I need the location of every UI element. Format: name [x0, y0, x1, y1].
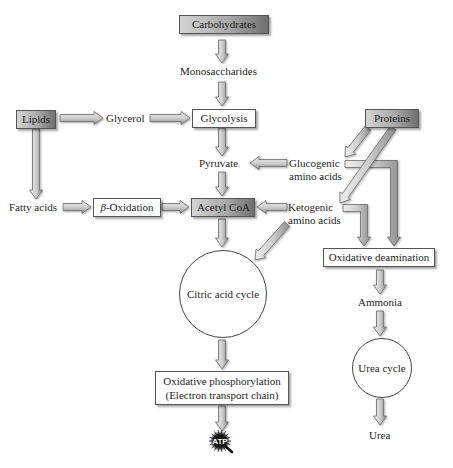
ammonia-label: Ammonia	[358, 296, 402, 309]
ketogenic-line1: Ketogenic	[288, 201, 341, 214]
arrow-oxphos-atp	[216, 406, 229, 431]
atp-label: ATP	[212, 437, 228, 446]
urea-cycle-circle: Urea cycle	[352, 338, 412, 398]
arrow-lipids-fatty-acids	[30, 129, 43, 199]
arrow-ketogenic-acetyl-coa	[257, 201, 287, 214]
atp-icon: ATP	[209, 430, 237, 458]
urea-label: Urea	[369, 429, 390, 442]
acetyl-coa-box: Acetyl CoA	[191, 198, 255, 217]
oxidative-deamination-box: Oxidative deamination	[323, 248, 435, 267]
arrow-urea-cycle-urea	[374, 399, 387, 425]
arrow-citric-acid-cycle-oxphos	[216, 340, 229, 369]
glucogenic-line1: Glucogenic	[289, 157, 342, 170]
arrow-pyruvate-acetyl-coa	[216, 172, 229, 196]
atp-burst-spike	[218, 448, 219, 452]
pyruvate-label: Pyruvate	[199, 157, 238, 170]
proteins-box: Proteins	[365, 109, 419, 128]
glucogenic-line2: amino acids	[289, 170, 342, 183]
arrow-proteins-glucogenic	[345, 126, 371, 157]
arrow-ammonia-urea-cycle	[374, 311, 387, 336]
lipids-box: Lipids	[16, 110, 56, 129]
glucogenic-amino-acids-label: Glucogenic amino acids	[289, 157, 342, 183]
ketogenic-amino-acids-label: Ketogenic amino acids	[288, 201, 341, 227]
arrow-oxidative-deamination-ammonia	[374, 270, 387, 294]
monosaccharides-label: Monosaccharides	[180, 65, 257, 78]
oxphos-line2: (Electron transport chain)	[160, 388, 284, 402]
arrow-fatty-acids-beta-oxidation	[63, 201, 91, 214]
carbohydrates-box: Carbohydrates	[179, 15, 269, 34]
arrow-glucogenic-pyruvate	[250, 157, 287, 170]
arrow-glycerol-glycolysis	[150, 112, 190, 125]
arrow-monosaccharides-glycolysis	[216, 82, 229, 106]
atp-burst-spike	[218, 430, 219, 434]
arrow-carbohydrates-monosaccharides	[216, 40, 229, 63]
arrow-beta-oxidation-acetyl-coa	[162, 201, 189, 214]
beta-oxidation-box: β-Oxidation	[93, 198, 161, 217]
fatty-acids-label: Fatty acids	[9, 201, 57, 214]
oxphos-line1: Oxidative phosphorylation	[160, 374, 284, 388]
oxidative-phosphorylation-box: Oxidative phosphorylation (Electron tran…	[155, 371, 289, 405]
ketogenic-line2: amino acids	[288, 214, 341, 227]
arrow-glycolysis-pyruvate	[216, 128, 229, 156]
glycerol-label: Glycerol	[106, 112, 144, 125]
atp-burst-spike	[221, 430, 222, 434]
metabolism-diagram: Carbohydrates Monosaccharides Lipids Gly…	[0, 0, 453, 468]
arrow-ketogenic-citric-acid-cycle	[255, 222, 290, 260]
glycolysis-box: Glycolysis	[192, 109, 256, 128]
arrow-lipids-glycerol	[60, 112, 103, 125]
arrow-ketogenic-oxidative-deamination	[343, 205, 371, 247]
atp-burst-spike	[221, 448, 222, 452]
citric-acid-cycle-circle: Citric acid cycle	[179, 250, 267, 338]
citric-acid-cycle-label: Citric acid cycle	[187, 288, 259, 300]
urea-cycle-label: Urea cycle	[358, 362, 405, 374]
arrow-glucogenic-oxidative-deamination	[345, 161, 401, 247]
arrow-acetyl-coa-citric-acid-cycle	[216, 219, 229, 247]
beta-oxidation-text: -Oxidation	[106, 201, 154, 213]
